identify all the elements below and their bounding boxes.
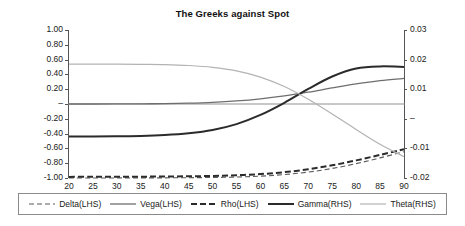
left-tick-label: – xyxy=(58,99,63,108)
right-tick-label: 0.01 xyxy=(410,84,427,93)
x-tick-label: 70 xyxy=(304,182,313,191)
left-tick-label: 0.20 xyxy=(46,84,63,93)
x-tick-label: 40 xyxy=(160,182,169,191)
legend-line-swatch xyxy=(191,200,217,208)
right-tick-label: 0.03 xyxy=(410,25,427,34)
x-tick-label: 55 xyxy=(232,182,241,191)
left-tick-label: 1.00 xyxy=(46,25,63,34)
left-tick-label: 0.60 xyxy=(46,55,63,64)
left-tick-label: -0.60 xyxy=(44,143,63,152)
x-tick-label: 85 xyxy=(375,182,384,191)
right-tick-mark xyxy=(404,178,407,179)
legend-label: Gamma(RHS) xyxy=(298,199,352,209)
legend-label: Delta(LHS) xyxy=(59,199,101,209)
right-tick-label: 0.02 xyxy=(410,55,427,64)
x-tick-label: 80 xyxy=(351,182,360,191)
plot-area: 1.000.800.600.400.20–-0.20-0.40-0.60-0.8… xyxy=(68,30,405,178)
x-tick-label: 20 xyxy=(64,182,73,191)
legend-line-swatch xyxy=(29,200,55,208)
series-lines xyxy=(68,30,405,178)
legend-item[interactable]: Delta(LHS) xyxy=(29,199,101,209)
x-tick-label: 35 xyxy=(136,182,145,191)
legend-item[interactable]: Gamma(RHS) xyxy=(268,199,352,209)
legend-line-swatch xyxy=(110,200,136,208)
legend-item[interactable]: Rho(LHS) xyxy=(191,199,259,209)
legend-line-swatch xyxy=(360,200,386,208)
legend-label: Theta(RHS) xyxy=(390,199,435,209)
chart-title: The Greeks against Spot xyxy=(0,8,465,19)
x-tick-label: 45 xyxy=(184,182,193,191)
x-tick-label: 50 xyxy=(208,182,217,191)
left-tick-label: -0.40 xyxy=(44,129,63,138)
legend-item[interactable]: Theta(RHS) xyxy=(360,199,435,209)
x-tick-label: 60 xyxy=(256,182,265,191)
legend-item[interactable]: Vega(LHS) xyxy=(110,199,182,209)
legend-line-swatch xyxy=(268,200,294,208)
left-tick-label: 0.40 xyxy=(46,69,63,78)
right-tick-label: -0.01 xyxy=(410,143,429,152)
left-tick-label: -0.80 xyxy=(44,158,63,167)
series-line-thetarhs xyxy=(69,64,404,157)
series-line-rholhs xyxy=(69,149,404,177)
series-line-vegalhs xyxy=(69,78,404,104)
x-tick-label: 25 xyxy=(88,182,97,191)
chart-root: The Greeks against Spot 1.000.800.600.40… xyxy=(0,0,465,226)
right-tick-label: – xyxy=(410,114,415,123)
legend-label: Vega(LHS) xyxy=(140,199,182,209)
x-tick-label: 30 xyxy=(112,182,121,191)
left-tick-label: -1.00 xyxy=(44,173,63,182)
chart-legend: Delta(LHS)Vega(LHS)Rho(LHS)Gamma(RHS)The… xyxy=(18,193,447,215)
x-tick-label: 75 xyxy=(327,182,336,191)
legend-label: Rho(LHS) xyxy=(221,199,259,209)
left-tick-label: -0.20 xyxy=(44,114,63,123)
left-tick-mark xyxy=(65,178,68,179)
x-tick-label: 65 xyxy=(280,182,289,191)
left-tick-label: 0.80 xyxy=(46,40,63,49)
right-tick-label: -0.02 xyxy=(410,173,429,182)
x-tick-label: 90 xyxy=(399,182,408,191)
series-line-deltalhs xyxy=(69,152,404,178)
